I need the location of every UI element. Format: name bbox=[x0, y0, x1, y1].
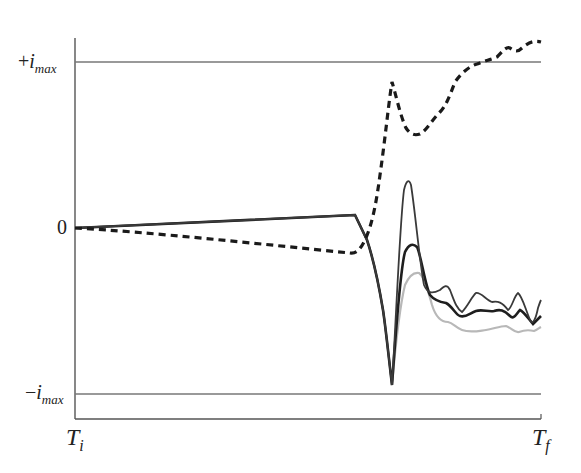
x-tick-main: T bbox=[532, 424, 545, 450]
x-tick-sub: f bbox=[545, 437, 549, 454]
y-tick-main: 0 bbox=[57, 216, 67, 238]
series-dashed bbox=[75, 41, 541, 253]
x-tick-ti: Ti bbox=[66, 424, 84, 455]
y-tick-prefix: + bbox=[18, 50, 29, 72]
y-tick-prefix: − bbox=[25, 381, 36, 403]
x-tick-sub: i bbox=[79, 437, 83, 454]
y-tick-sub: max bbox=[42, 392, 64, 407]
x-tick-tf: Tf bbox=[532, 424, 550, 455]
series-thin-dark bbox=[75, 181, 541, 385]
chart-canvas bbox=[0, 0, 581, 473]
y-tick-pos-imax: +imax bbox=[18, 50, 57, 77]
y-tick-neg-imax: −imax bbox=[25, 381, 64, 408]
x-tick-main: T bbox=[66, 424, 79, 450]
y-tick-zero: 0 bbox=[57, 216, 67, 239]
y-tick-sub: max bbox=[35, 61, 57, 76]
